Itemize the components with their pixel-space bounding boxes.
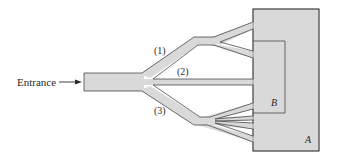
path-3-corridor: [140, 86, 210, 125]
path-1-fork-upper: [212, 22, 253, 45]
room-b-label: B: [271, 98, 277, 108]
path-1-label: (1): [154, 46, 166, 56]
path-2-label: (2): [177, 67, 189, 77]
path-2-corridor: [144, 79, 253, 85]
entrance-arrow-icon: [59, 80, 82, 85]
maze-diagram: Entrance (1) (2) (3) B A: [0, 0, 337, 162]
room-a-label: A: [305, 135, 311, 145]
entrance-corridor: [84, 73, 144, 91]
room-a: [253, 9, 319, 151]
entrance-label: Entrance: [17, 77, 56, 88]
path-3-label: (3): [154, 106, 166, 116]
